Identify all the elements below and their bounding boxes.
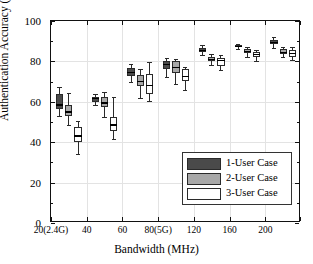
median-line: [56, 104, 63, 105]
whisker-cap-upper: [174, 59, 178, 60]
y-tick-minor: [51, 122, 53, 123]
whisker-cap-upper: [281, 47, 285, 48]
x-tick-top: [158, 21, 159, 25]
whisker-cap-upper: [245, 47, 249, 48]
median-line: [217, 60, 224, 61]
whisker-cap-lower: [93, 105, 97, 106]
x-tick-top: [194, 21, 195, 25]
y-tick-minor-right: [297, 203, 299, 204]
y-tick-major-right: [295, 223, 299, 224]
median-line: [199, 50, 206, 51]
whisker-cap-lower: [147, 101, 151, 102]
median-line: [101, 102, 108, 103]
y-tick-label: 20: [30, 177, 41, 188]
x-tick-top: [265, 21, 266, 25]
whisker-cap-upper: [165, 58, 169, 59]
whisker-cap-upper: [219, 55, 223, 56]
whisker-cap-lower: [76, 154, 80, 155]
whisker-cap-upper: [129, 64, 133, 65]
median-line: [235, 46, 242, 47]
box-plot-box: [65, 21, 72, 223]
y-tick-minor: [51, 82, 53, 83]
y-tick-major: [51, 142, 55, 143]
y-tick-minor-right: [297, 82, 299, 83]
legend-item: 1-User Case: [187, 156, 287, 171]
box-plot-box: [74, 21, 81, 223]
box-plot-figure: Authentication Accuracy (%) 020406080100…: [0, 0, 313, 264]
median-line: [65, 111, 72, 112]
x-tick-top: [230, 21, 231, 25]
y-tick-major: [51, 61, 55, 62]
x-tick-label: 40: [82, 226, 92, 236]
whisker-lower: [59, 109, 60, 116]
whisker-cap-lower: [281, 57, 285, 58]
legend-swatch-3-user: [187, 188, 221, 200]
whisker-cap-upper: [290, 47, 294, 48]
median-line: [110, 124, 117, 125]
whisker-cap-lower: [183, 90, 187, 91]
x-tick-label: 160: [222, 226, 236, 236]
y-tick-minor-right: [297, 41, 299, 42]
gridline-vertical: [87, 21, 88, 221]
y-tick-major: [51, 102, 55, 103]
whisker-lower: [113, 131, 114, 139]
box-plot-box: [92, 21, 99, 223]
whisker-cap-upper: [209, 54, 213, 55]
y-tick-minor-right: [297, 122, 299, 123]
box-plot-box: [101, 21, 108, 223]
whisker-cap-lower: [254, 61, 258, 62]
whisker-cap-lower: [67, 125, 71, 126]
y-tick-label: 60: [30, 96, 41, 107]
y-tick-label: 100: [25, 16, 42, 27]
iqr-box: [56, 94, 63, 109]
whisker-lower: [175, 73, 176, 84]
x-axis-title: Bandwidth (MHz): [0, 243, 313, 255]
y-tick-minor: [51, 203, 53, 204]
median-line: [208, 59, 215, 60]
y-tick-label: 40: [30, 137, 41, 148]
whisker-cap-upper: [272, 37, 276, 38]
whisker-cap-lower: [245, 57, 249, 58]
whisker-cap-lower: [57, 116, 61, 117]
whisker-cap-upper: [102, 92, 106, 93]
whisker-cap-lower: [174, 84, 178, 85]
whisker-cap-upper: [200, 45, 204, 46]
box-plot-box: [163, 21, 170, 223]
whisker-cap-lower: [112, 139, 116, 140]
box-plot-box: [146, 21, 153, 223]
y-tick-minor-right: [297, 162, 299, 163]
whisker-cap-lower: [200, 55, 204, 56]
x-tick: [122, 217, 123, 221]
legend-swatch-2-user: [187, 173, 221, 185]
median-line: [163, 64, 170, 65]
median-line: [270, 42, 277, 43]
legend-item: 3-User Case: [187, 186, 287, 201]
median-line: [172, 67, 179, 68]
whisker-upper: [113, 97, 114, 117]
gridline-vertical: [122, 21, 123, 221]
x-tick: [51, 217, 52, 221]
median-line: [253, 54, 260, 55]
whisker-cap-lower: [209, 65, 213, 66]
x-tick-label: 80(5G): [144, 226, 171, 236]
whisker-lower: [185, 81, 186, 90]
x-tick-label: 20(2.4G): [34, 226, 69, 236]
legend-label-1-user: 1-User Case: [226, 158, 278, 169]
median-line: [289, 53, 296, 54]
median-line: [182, 76, 189, 77]
whisker-cap-lower: [236, 49, 240, 50]
iqr-box: [146, 74, 153, 94]
median-line: [146, 85, 153, 86]
whisker-cap-lower: [290, 60, 294, 61]
median-line: [137, 81, 144, 82]
y-tick-major: [51, 223, 55, 224]
median-line: [244, 51, 251, 52]
box-plot-box: [137, 21, 144, 223]
whisker-cap-upper: [147, 62, 151, 63]
legend-item: 2-User Case: [187, 171, 287, 186]
whisker-lower: [68, 116, 69, 125]
x-tick: [230, 217, 231, 221]
whisker-cap-lower: [219, 70, 223, 71]
iqr-box: [163, 61, 170, 69]
whisker-cap-upper: [112, 97, 116, 98]
